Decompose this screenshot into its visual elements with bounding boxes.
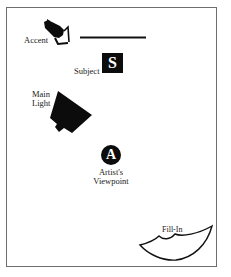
artist-marker: A	[101, 145, 121, 165]
main-light-icon	[50, 91, 92, 133]
subject-label: Subject	[74, 67, 100, 76]
subject-marker: S	[102, 53, 123, 73]
fill-in-label: Fill-In	[162, 225, 182, 234]
accent-label: Accent	[24, 36, 48, 45]
main-light-label-line2: Light	[32, 99, 50, 108]
artist-label-line2: Viewpoint	[86, 177, 136, 186]
